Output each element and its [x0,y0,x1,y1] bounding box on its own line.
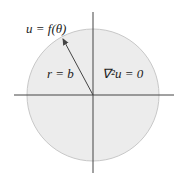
disk-diagram: u = f(θ) r = b ∇²u = 0 [0,0,180,181]
equation-label: ∇²u = 0 [102,66,144,81]
boundary-label: u = f(θ) [26,21,66,36]
diagram: u = f(θ) r = b ∇²u = 0 [0,0,180,181]
radius-label: r = b [47,66,74,81]
